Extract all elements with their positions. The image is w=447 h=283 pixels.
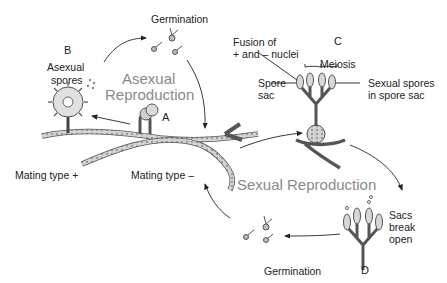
sexual-reproduction-title: Sexual Reproduction [237,176,376,193]
spore-sac-structure [296,73,345,168]
fusion-label-1: Fusion of [233,36,276,48]
zygosporangium-a [140,104,158,134]
asexual-reproduction-title-1: Asexual [122,70,175,87]
sacs-break-open-label-2: break [389,221,415,233]
mating-type-plus-label: Mating type + [15,169,78,181]
sexual-spores-label-2: in spore sac [368,89,425,101]
fungal-life-cycle-diagram [0,0,447,283]
sexual-spores-label-1: Sexual spores [368,77,435,89]
sacs-break-open-label-3: open [389,233,412,245]
stage-c-label: C [334,35,342,47]
stage-b-label: B [64,44,71,56]
asexual-spores-label-1: Asexual [47,61,84,73]
open-sacs-structure [344,196,383,271]
germinating-spores-bottom [244,216,274,243]
spore-sac-label-1: Spore [258,77,286,89]
mating-type-minus-label: Mating type – [131,169,194,181]
asexual-sporangium [48,79,95,133]
germinating-spores-top [152,28,183,55]
germination-top-label: Germination [151,13,208,25]
asexual-reproduction-title-2: Reproduction [105,86,194,103]
germination-bottom-label: Germination [264,265,321,277]
fusion-label-2: + and – nuclei [233,48,299,60]
stage-a-label: A [162,111,169,123]
meiosis-label: Meiosis [320,58,356,70]
asexual-spores-label-2: spores [51,74,83,86]
stage-d-label: D [361,264,369,276]
sacs-break-open-label-1: Sacs [389,209,412,221]
spore-sac-label-2: sac [258,89,274,101]
